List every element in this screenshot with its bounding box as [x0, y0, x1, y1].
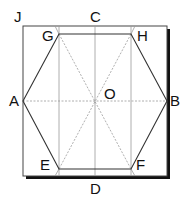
- label-o: O: [104, 85, 116, 102]
- label-a: A: [9, 92, 19, 109]
- label-f: F: [136, 156, 145, 173]
- hexagon-diagram: J C G H A O B E F D: [0, 0, 190, 203]
- label-d: D: [90, 180, 101, 197]
- label-h: H: [137, 27, 148, 44]
- label-b: B: [170, 92, 180, 109]
- label-c: C: [90, 8, 101, 25]
- label-e: E: [40, 156, 50, 173]
- label-g: G: [42, 27, 54, 44]
- label-j: J: [14, 8, 22, 25]
